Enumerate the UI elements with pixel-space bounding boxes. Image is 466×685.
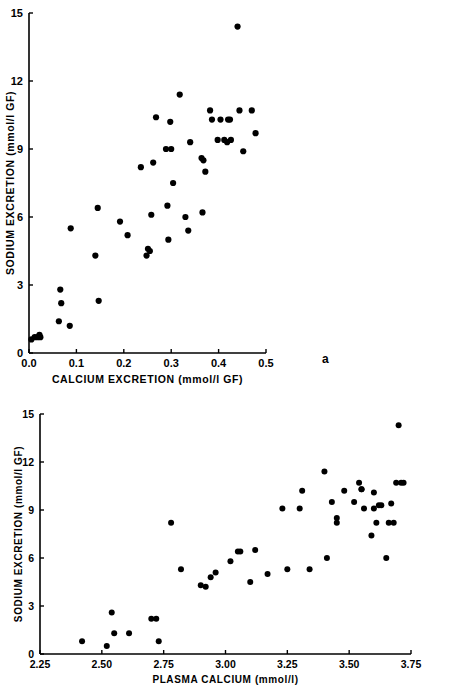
data-point: [177, 92, 183, 98]
data-point: [359, 486, 365, 492]
data-point: [396, 422, 402, 428]
data-point: [299, 488, 305, 494]
data-point: [168, 146, 174, 152]
y-tick-label: 6: [28, 552, 34, 564]
data-point: [56, 318, 62, 324]
data-point: [321, 469, 327, 475]
y-tick-label: 6: [17, 211, 23, 223]
data-point: [104, 643, 110, 649]
data-point: [324, 555, 330, 561]
data-point: [351, 499, 357, 505]
data-point: [153, 114, 159, 120]
data-point: [68, 225, 74, 231]
y-tick-label: 15: [22, 408, 34, 420]
data-point: [213, 569, 219, 575]
data-point: [202, 169, 208, 175]
data-point: [117, 218, 123, 224]
data-point: [170, 180, 176, 186]
data-point: [96, 298, 102, 304]
x-tick-label: 3.50: [339, 658, 360, 670]
data-point: [182, 214, 188, 220]
data-point: [138, 164, 144, 170]
data-point: [199, 209, 205, 215]
data-point: [383, 555, 389, 561]
data-point: [153, 616, 159, 622]
data-point: [95, 205, 101, 211]
data-point: [207, 107, 213, 113]
data-point: [111, 630, 117, 636]
x-tick-label: 0.5: [258, 357, 273, 369]
data-point: [165, 237, 171, 243]
data-point-group: [28, 24, 258, 343]
data-point: [227, 558, 233, 564]
data-point: [156, 638, 162, 644]
x-tick-label: 2.75: [153, 658, 174, 670]
data-point: [247, 579, 253, 585]
data-point: [200, 157, 206, 163]
data-point: [378, 502, 384, 508]
data-point: [203, 584, 209, 590]
data-point: [57, 286, 63, 292]
y-tick-label: 12: [11, 75, 23, 87]
panel-a-scatter-chart: 036912150.00.10.20.30.40.5CALCIUM EXCRET…: [0, 0, 466, 392]
data-point: [164, 203, 170, 209]
panel-b-plot-area: 036912152.252.502.753.003.253.503.75PLAS…: [0, 392, 466, 685]
y-tick-label: 9: [17, 143, 23, 155]
x-tick-label: 0.3: [164, 357, 179, 369]
x-tick-label: 3.25: [277, 658, 298, 670]
data-point: [215, 137, 221, 143]
data-point: [265, 571, 271, 577]
data-point: [373, 520, 379, 526]
x-tick-label: 2.50: [92, 658, 113, 670]
data-point: [368, 533, 374, 539]
data-point: [240, 148, 246, 154]
x-tick-label: 0.4: [211, 357, 227, 369]
data-point: [79, 638, 85, 644]
data-point: [178, 566, 184, 572]
panel-a-plot-area: 036912150.00.10.20.30.40.5CALCIUM EXCRET…: [0, 0, 466, 392]
data-point: [126, 630, 132, 636]
data-point: [284, 566, 290, 572]
data-point: [37, 334, 43, 340]
x-tick-label: 0.0: [21, 357, 36, 369]
data-point: [249, 107, 255, 113]
data-point: [329, 499, 335, 505]
data-point: [147, 248, 153, 254]
data-point: [297, 505, 303, 511]
data-point: [307, 566, 313, 572]
y-axis-title: SODIUM EXCRETION (mmol/l GF): [4, 91, 16, 275]
x-axis-title: CALCIUM EXCRETION (mmol/l GF): [52, 373, 243, 385]
data-point: [237, 549, 243, 555]
data-point: [388, 501, 394, 507]
x-tick-label: 2.25: [30, 658, 51, 670]
y-tick-label: 3: [17, 279, 23, 291]
data-point: [92, 252, 98, 258]
data-point: [341, 488, 347, 494]
data-point: [185, 228, 191, 234]
data-point: [252, 130, 258, 136]
data-point: [124, 232, 130, 238]
y-axis-title: SODIUM EXCRETION (mmol/l GF): [13, 446, 24, 622]
data-point: [371, 505, 377, 511]
data-point: [279, 505, 285, 511]
panel-b-scatter-chart: 036912152.252.502.753.003.253.503.75PLAS…: [0, 392, 466, 685]
data-point: [217, 116, 223, 122]
data-point: [252, 547, 258, 553]
y-tick-label: 3: [28, 600, 34, 612]
data-point: [371, 489, 377, 495]
data-point: [67, 323, 73, 329]
x-tick-label: 3.75: [401, 658, 422, 670]
x-tick-label: 3.00: [215, 658, 236, 670]
data-point: [148, 212, 154, 218]
y-tick-label: 12: [22, 456, 34, 468]
data-point: [391, 520, 397, 526]
data-point: [401, 480, 407, 486]
x-tick-label: 0.1: [69, 357, 84, 369]
panel-a-letter: a: [322, 352, 329, 366]
data-point: [227, 116, 233, 122]
data-point: [58, 300, 64, 306]
y-tick-label: 15: [11, 7, 23, 19]
figure-container: 036912150.00.10.20.30.40.5CALCIUM EXCRET…: [0, 0, 466, 685]
y-tick-label: 9: [28, 504, 34, 516]
x-axis-title: PLASMA CALCIUM (mmol/l): [152, 674, 298, 685]
